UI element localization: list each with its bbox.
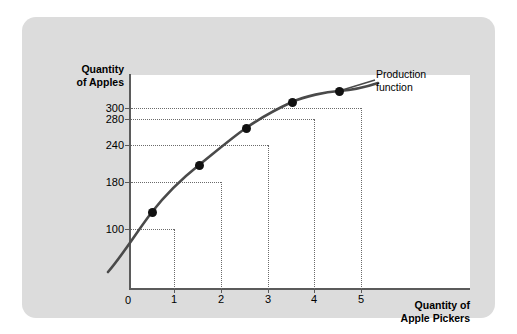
guide-horizontal-280 bbox=[131, 119, 314, 120]
y-tick-label-280: 280 bbox=[78, 114, 124, 125]
x-axis-title: Quantity of Apple Pickers bbox=[374, 299, 470, 325]
guide-horizontal-240 bbox=[131, 145, 268, 146]
data-point-3 bbox=[242, 124, 251, 133]
y-tick-mark-180 bbox=[125, 182, 130, 183]
x-axis-line bbox=[129, 288, 470, 290]
x-tick-label-5: 5 bbox=[351, 294, 371, 305]
y-tick-label-240: 240 bbox=[78, 140, 124, 151]
data-point-4 bbox=[288, 98, 297, 107]
x-tick-label-3: 3 bbox=[258, 294, 278, 305]
y-tick-mark-240 bbox=[125, 145, 130, 146]
y-tick-mark-300 bbox=[125, 108, 130, 109]
guide-horizontal-300 bbox=[131, 108, 361, 109]
y-tick-label-100: 100 bbox=[78, 224, 124, 235]
data-point-2 bbox=[195, 161, 204, 170]
x-tick-label-1: 1 bbox=[164, 294, 184, 305]
data-point-5 bbox=[335, 87, 344, 96]
data-point-1 bbox=[148, 208, 157, 217]
guide-vertical-5 bbox=[361, 108, 362, 289]
guide-horizontal-100 bbox=[131, 229, 174, 230]
guide-vertical-3 bbox=[268, 145, 269, 289]
figure-panel: Quantity of Apples Quantity of Apple Pic… bbox=[22, 17, 495, 318]
x-tick-label-0: 0 bbox=[118, 294, 138, 306]
y-tick-mark-280 bbox=[125, 119, 130, 120]
y-tick-mark-100 bbox=[125, 229, 130, 230]
guide-vertical-1 bbox=[174, 229, 175, 289]
guide-horizontal-180 bbox=[131, 182, 221, 183]
x-tick-label-2: 2 bbox=[211, 294, 231, 305]
y-tick-label-180: 180 bbox=[78, 177, 124, 188]
series-annotation-label: Production function bbox=[376, 68, 446, 94]
y-axis-title: Quantity of Apples bbox=[52, 63, 124, 89]
guide-vertical-2 bbox=[221, 182, 222, 289]
guide-vertical-4 bbox=[314, 119, 315, 289]
x-tick-label-4: 4 bbox=[304, 294, 324, 305]
